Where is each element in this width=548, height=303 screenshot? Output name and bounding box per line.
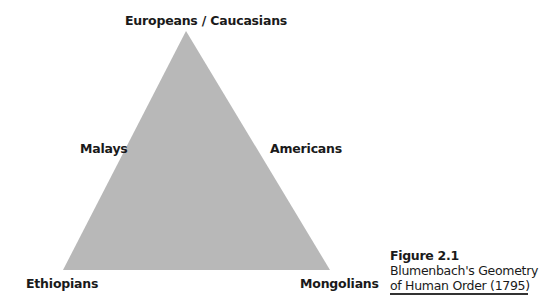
label-americans: Americans <box>270 141 342 156</box>
label-malays: Malays <box>80 141 128 156</box>
caption-underline <box>390 293 528 295</box>
figure-caption: Figure 2.1 Blumenbach's Geometry of Huma… <box>390 248 538 293</box>
figure-title-line2: of Human Order (1795) <box>390 278 538 293</box>
label-mongolians: Mongolians <box>300 276 379 291</box>
figure-number: Figure 2.1 <box>390 248 538 263</box>
figure-title-line1: Blumenbach's Geometry <box>390 263 538 278</box>
label-ethiopians: Ethiopians <box>26 276 98 291</box>
label-europeans-caucasians: Europeans / Caucasians <box>125 13 287 28</box>
